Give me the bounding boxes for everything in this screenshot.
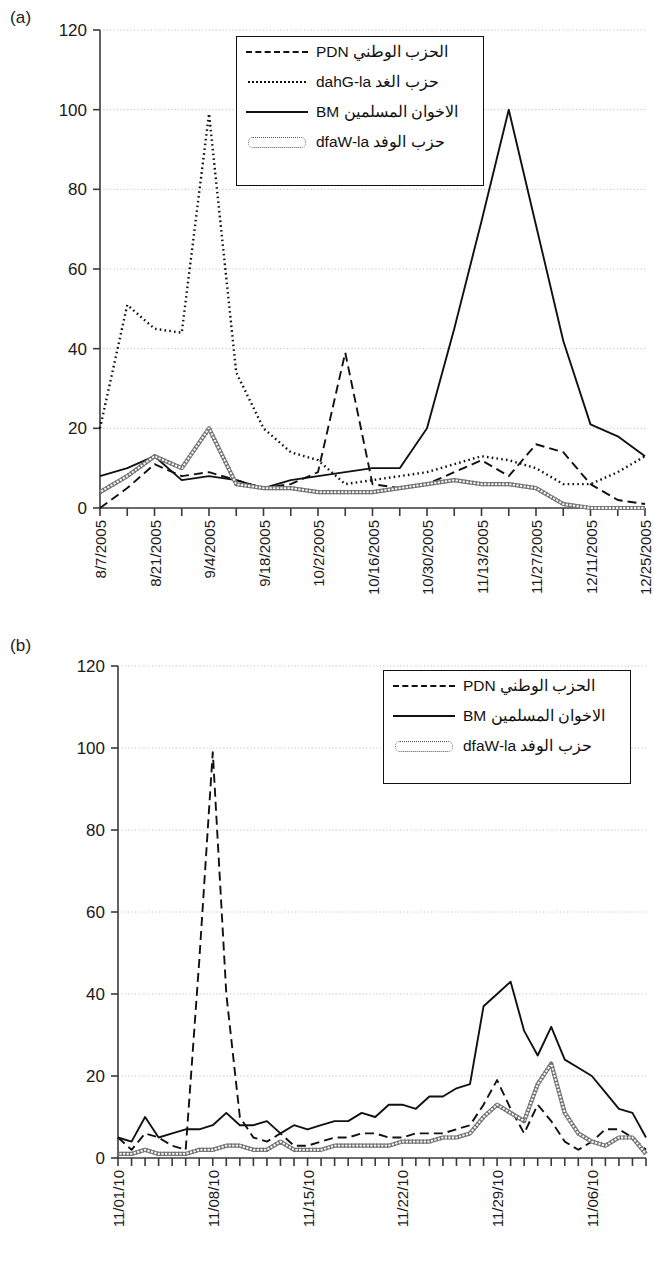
legend-item-ndp-b: الحزب الوطني NDP bbox=[384, 671, 630, 701]
series-line-alwafd bbox=[118, 1064, 646, 1154]
x-axis-tick-label: 11/15/10 bbox=[300, 1170, 317, 1227]
x-axis-tick-label: 8/7/2005 bbox=[92, 520, 109, 578]
legend-label-alwafd: حزب الوفد al-Wafd bbox=[316, 133, 445, 151]
x-axis-tick-label: 9/4/2005 bbox=[201, 520, 218, 578]
y-axis-tick-label: 20 bbox=[86, 1067, 105, 1086]
legend-item-mb: الاخوان المسلمين MB bbox=[237, 97, 483, 127]
legend-label-ndp: الحزب الوطني NDP bbox=[316, 43, 448, 61]
legend-item-alghad: حزب الغد al-Ghad bbox=[237, 67, 483, 97]
x-axis-tick-label: 11/29/10 bbox=[489, 1170, 506, 1227]
y-axis-tick-label: 80 bbox=[86, 821, 105, 840]
y-axis-tick-label: 40 bbox=[68, 340, 87, 359]
x-axis-tick-label: 8/21/2005 bbox=[147, 520, 164, 587]
x-axis-tick-label: 11/22/10 bbox=[394, 1170, 411, 1227]
x-axis-tick-label: 12/11/2005 bbox=[583, 520, 600, 594]
legend-swatch-double-dotted-icon bbox=[246, 135, 308, 149]
legend-label-mb: الاخوان المسلمين MB bbox=[316, 103, 458, 121]
series-line-ndp bbox=[118, 752, 646, 1150]
legend-label-mb-b: الاخوان المسلمين MB bbox=[463, 707, 605, 725]
chart-panel-a: (a) 0204060801001208/7/20058/21/20059/4/… bbox=[0, 0, 654, 628]
x-axis-tick-label: 11/06/10 bbox=[584, 1170, 601, 1227]
legend-swatch-dotted-icon bbox=[246, 75, 308, 89]
y-axis-tick-label: 60 bbox=[68, 260, 87, 279]
legend-item-ndp: الحزب الوطني NDP bbox=[237, 37, 483, 67]
legend-label-alghad: حزب الغد al-Ghad bbox=[316, 73, 439, 91]
x-axis-tick-label: 11/08/10 bbox=[205, 1170, 222, 1227]
y-axis-tick-label: 20 bbox=[68, 419, 87, 438]
legend-label-ndp-b: الحزب الوطني NDP bbox=[463, 677, 595, 695]
y-axis-tick-label: 120 bbox=[77, 657, 105, 676]
x-axis-tick-label: 12/25/2005 bbox=[637, 520, 654, 595]
legend-swatch-double-dotted-icon bbox=[393, 739, 455, 753]
y-axis-tick-label: 100 bbox=[59, 101, 87, 120]
y-axis-tick-label: 0 bbox=[96, 1149, 105, 1168]
legend-swatch-solid-icon bbox=[393, 709, 455, 723]
y-axis-tick-label: 120 bbox=[59, 21, 87, 40]
legend-b: الحزب الوطني NDP الاخوان المسلمين MB حزب… bbox=[383, 670, 631, 784]
legend-swatch-dashed-icon bbox=[246, 45, 308, 59]
legend-item-mb-b: الاخوان المسلمين MB bbox=[384, 701, 630, 731]
x-axis-tick-label: 11/27/2005 bbox=[528, 520, 545, 594]
x-axis-tick-label: 9/18/2005 bbox=[256, 520, 273, 587]
y-axis-tick-label: 100 bbox=[77, 739, 105, 758]
y-axis-tick-label: 0 bbox=[78, 499, 87, 518]
legend-a: الحزب الوطني NDP حزب الغد al-Ghad الاخوا… bbox=[236, 36, 484, 186]
y-axis-tick-label: 60 bbox=[86, 903, 105, 922]
y-axis-tick-label: 40 bbox=[86, 985, 105, 1004]
legend-swatch-solid-icon bbox=[246, 105, 308, 119]
x-axis-tick-label: 11/01/10 bbox=[110, 1170, 127, 1227]
x-axis-tick-label: 11/13/2005 bbox=[474, 520, 491, 594]
legend-swatch-dashed-icon bbox=[393, 679, 455, 693]
legend-label-alwafd-b: حزب الوفد al-Wafd bbox=[463, 737, 592, 755]
x-axis-tick-label: 10/2/2005 bbox=[310, 520, 327, 587]
x-axis-tick-label: 10/16/2005 bbox=[365, 520, 382, 595]
legend-item-alwafd: حزب الوفد al-Wafd bbox=[237, 127, 483, 157]
x-axis-tick-label: 10/30/2005 bbox=[419, 520, 436, 595]
chart-panel-b: (b) 02040608010012011/01/1011/08/1011/15… bbox=[0, 628, 654, 1268]
y-axis-tick-label: 80 bbox=[68, 180, 87, 199]
legend-item-alwafd-b: حزب الوفد al-Wafd bbox=[384, 731, 630, 761]
